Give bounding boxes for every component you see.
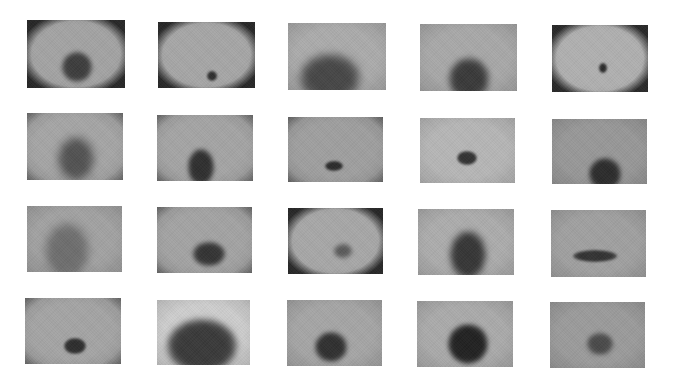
grain-overlay <box>157 300 250 365</box>
lesion-image-tile <box>552 25 648 92</box>
grain-overlay <box>157 115 253 181</box>
grain-overlay <box>417 301 513 367</box>
grain-overlay <box>158 22 255 88</box>
grain-overlay <box>420 24 517 91</box>
lesion-image-tile <box>158 22 255 88</box>
lesion-image-tile <box>157 115 253 181</box>
grain-overlay <box>418 209 514 275</box>
grain-overlay <box>288 23 386 90</box>
lesion-image-tile <box>551 210 646 277</box>
grain-overlay <box>420 118 515 183</box>
lesion-image-tile <box>420 118 515 183</box>
lesion-image-tile <box>25 298 121 364</box>
lesion-image-tile <box>420 24 517 91</box>
grain-overlay <box>27 206 122 272</box>
lesion-image-grid <box>0 0 674 387</box>
grain-overlay <box>287 300 382 366</box>
grain-overlay <box>288 208 383 274</box>
lesion-image-tile <box>418 209 514 275</box>
grain-overlay <box>157 207 252 273</box>
lesion-image-tile <box>288 117 383 182</box>
grain-overlay <box>550 302 645 368</box>
lesion-image-tile <box>27 20 125 88</box>
grain-overlay <box>552 119 647 184</box>
grain-overlay <box>27 20 125 88</box>
lesion-image-tile <box>288 23 386 90</box>
lesion-image-tile <box>27 206 122 272</box>
grain-overlay <box>288 117 383 182</box>
lesion-image-tile <box>417 301 513 367</box>
lesion-image-tile <box>157 207 252 273</box>
lesion-image-tile <box>552 119 647 184</box>
lesion-image-tile <box>287 300 382 366</box>
grain-overlay <box>551 210 646 277</box>
lesion-image-tile <box>550 302 645 368</box>
grain-overlay <box>27 113 123 180</box>
grain-overlay <box>552 25 648 92</box>
lesion-image-tile <box>27 113 123 180</box>
lesion-image-tile <box>157 300 250 365</box>
grain-overlay <box>25 298 121 364</box>
lesion-image-tile <box>288 208 383 274</box>
